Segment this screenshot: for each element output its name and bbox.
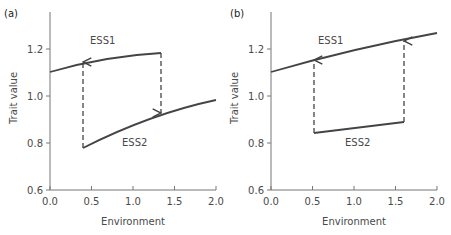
panel-b-xtick-3: 1.5	[388, 196, 404, 207]
panel-a-ess1-curve	[50, 53, 161, 72]
panel-a-x-title: Environment	[101, 216, 165, 227]
panel-b-label: (b)	[230, 8, 244, 19]
panel-b-ytick-2: 1.0	[248, 91, 264, 102]
panel-a: (a) 0.6 0.8 1.0 1.2 0.0 0.5 1.0 1.5 2.0 …	[4, 8, 224, 227]
panel-a-label: (a)	[4, 8, 18, 19]
panel-b-ess2-label: ESS2	[345, 137, 370, 148]
panel-a-xtick-1: 0.5	[84, 196, 100, 207]
panel-a-y-ticks	[46, 49, 50, 190]
panel-b-x-title: Environment	[322, 216, 386, 227]
panel-a-xtick-4: 2.0	[208, 196, 224, 207]
panel-a-ytick-1: 0.8	[27, 138, 43, 149]
panel-b-ess1-curve	[271, 33, 437, 72]
panel-b-y-ticks	[267, 49, 271, 190]
panel-a-xtick-2: 1.0	[125, 196, 141, 207]
panel-b-xtick-0: 0.0	[263, 196, 279, 207]
panel-a-ytick-2: 1.0	[27, 91, 43, 102]
panel-b-x-ticks	[271, 186, 437, 190]
panel-b-ytick-0: 0.6	[248, 185, 264, 196]
panel-a-y-title: Trait value	[8, 72, 19, 125]
panel-b-ytick-3: 1.2	[248, 44, 264, 55]
panel-b-xtick-2: 1.0	[346, 196, 362, 207]
figure: (a) 0.6 0.8 1.0 1.2 0.0 0.5 1.0 1.5 2.0 …	[0, 0, 451, 235]
panel-b-y-title: Trait value	[229, 72, 240, 125]
panel-a-x-ticks	[50, 186, 216, 190]
panel-a-xtick-3: 1.5	[167, 196, 183, 207]
panel-b-xtick-4: 2.0	[429, 196, 445, 207]
panel-b-ess2-curve	[314, 122, 404, 133]
panel-a-ytick-3: 1.2	[27, 44, 43, 55]
panel-b-ytick-1: 0.8	[248, 138, 264, 149]
panel-a-ess2-curve	[83, 100, 216, 148]
panel-a-ess2-label: ESS2	[122, 137, 147, 148]
panel-b: (b) 0.6 0.8 1.0 1.2 0.0 0.5 1.0 1.5 2.0 …	[229, 8, 445, 227]
panel-a-xtick-0: 0.0	[42, 196, 58, 207]
panel-a-ytick-0: 0.6	[27, 185, 43, 196]
panel-b-xtick-1: 0.5	[305, 196, 321, 207]
panel-b-ess1-label: ESS1	[318, 35, 343, 46]
panel-a-ess1-label: ESS1	[90, 35, 115, 46]
